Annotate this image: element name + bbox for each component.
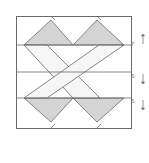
arrow-up-icon	[142, 34, 145, 44]
row2-label: 5	[131, 73, 135, 79]
row1-label: 7	[131, 41, 135, 47]
arrows	[142, 34, 145, 110]
arrow-down-icon	[142, 100, 145, 110]
row3-label: 5	[131, 98, 135, 104]
quilt-block-diagram: 7 5 5	[0, 0, 149, 163]
arrow-down-icon	[142, 74, 145, 84]
